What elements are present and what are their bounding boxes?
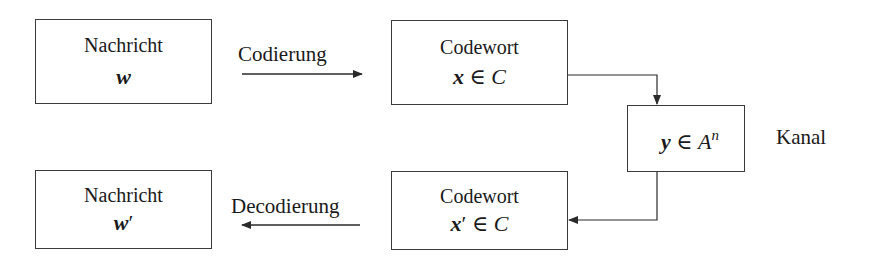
channel-expression: y ∈ An [661, 121, 719, 156]
codeword-out-expression: x′ ∈ C [451, 210, 509, 238]
codeword-title: Codewort [440, 35, 519, 59]
codeword-expression: x ∈ C [453, 63, 506, 91]
channel-label: Kanal [776, 125, 826, 150]
codeword-box: Codewort x ∈ C [391, 20, 568, 105]
message-out-box: Nachricht w′ [35, 170, 212, 249]
channel-to-codeword-out-arrow [569, 172, 657, 220]
codeword-out-box: Codewort x′ ∈ C [391, 171, 568, 250]
message-symbol: w [116, 63, 131, 91]
message-out-title: Nachricht [84, 183, 163, 207]
encode-label: Codierung [238, 42, 327, 67]
decode-label: Decodierung [231, 194, 339, 219]
codeword-out-title: Codewort [440, 184, 519, 208]
channel-box: y ∈ An [627, 105, 745, 172]
message-out-symbol: w′ [114, 209, 134, 237]
message-title: Nachricht [84, 33, 163, 57]
codeword-to-channel-arrow [568, 75, 657, 104]
message-box: Nachricht w [35, 19, 212, 104]
